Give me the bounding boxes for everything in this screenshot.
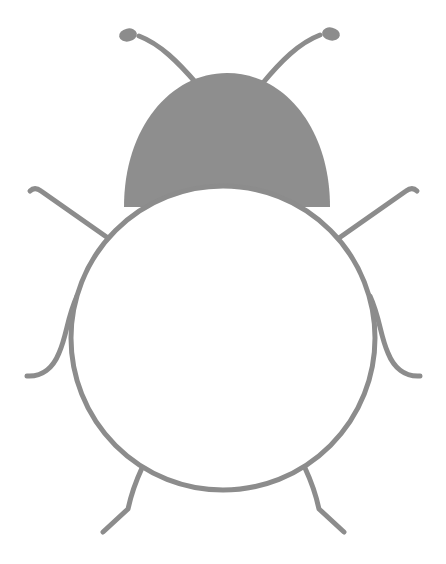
beetle-illustration bbox=[0, 0, 446, 564]
artwork-canvas bbox=[0, 0, 446, 564]
body bbox=[71, 186, 375, 490]
